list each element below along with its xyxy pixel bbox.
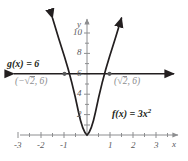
g-function-label: g(x) = 6: [7, 59, 39, 69]
x-tick-label-1: 1: [108, 141, 113, 150]
intersection-point-right: [107, 72, 111, 76]
y-tick-label-6: 6: [77, 69, 82, 78]
x-tick-label-neg2: -2: [37, 141, 45, 150]
y-axis: [84, 19, 90, 133]
x-tick-label-3: 3: [154, 141, 159, 150]
x-tick-label-2: 2: [131, 141, 136, 150]
x-tick-label-neg3: -3: [14, 141, 22, 150]
f-function-label: f(x) = 3x2: [112, 108, 151, 119]
graph-figure: y x 10 8 6 4 2 -3 -2 -1 1 2 3 g(x) = 6 f…: [0, 0, 188, 161]
x-axis-name: x: [172, 140, 176, 149]
y-tick-label-10: 10: [73, 28, 82, 37]
point-label-left: (−√2, 6): [15, 76, 47, 87]
y-tick-label-8: 8: [77, 48, 82, 57]
y-tick-label-2: 2: [77, 110, 82, 119]
point-label-left-close: , 6): [35, 76, 48, 86]
point-label-right-close: , 6): [127, 76, 140, 86]
x-tick-label-neg1: -1: [60, 141, 68, 150]
f-function-label-exponent: 2: [148, 107, 151, 114]
intersection-point-left: [62, 72, 66, 76]
point-label-left-open: (−: [15, 76, 25, 86]
y-tick-label-4: 4: [77, 89, 82, 98]
f-function-label-text: f(x) = 3x: [112, 108, 148, 119]
point-label-right: (√2, 6): [114, 76, 140, 87]
x-axis: [18, 132, 178, 138]
